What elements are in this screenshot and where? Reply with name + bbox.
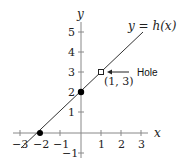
y-tick-label: 5 (68, 26, 75, 39)
y-axis-label: y (76, 7, 84, 21)
arrow-head-icon (107, 70, 112, 75)
x-tick-label: 3 (138, 138, 145, 151)
y-tick-label: 3 (68, 66, 75, 79)
x-tick-label: 1 (98, 138, 105, 151)
point-x-intercept (37, 130, 43, 136)
hole-point-label: (1, 3) (104, 75, 134, 88)
x-tick-label: −3 (12, 138, 28, 151)
graph: −3 −2 −1 1 2 3 5 4 3 2 1 −1 x y y = h(x)… (0, 0, 179, 168)
x-axis-label: x (154, 126, 161, 140)
x-tick-label: −2 (33, 138, 49, 151)
point-y-intercept (78, 89, 84, 95)
curve-label: y = h(x) (127, 19, 177, 33)
hole-label: Hole (137, 67, 158, 78)
hole-marker (99, 70, 104, 75)
x-tick-label: 2 (118, 138, 125, 151)
y-tick-label: 4 (68, 46, 75, 59)
y-tick-label: −1 (62, 147, 78, 160)
y-tick-label: 1 (68, 106, 75, 119)
